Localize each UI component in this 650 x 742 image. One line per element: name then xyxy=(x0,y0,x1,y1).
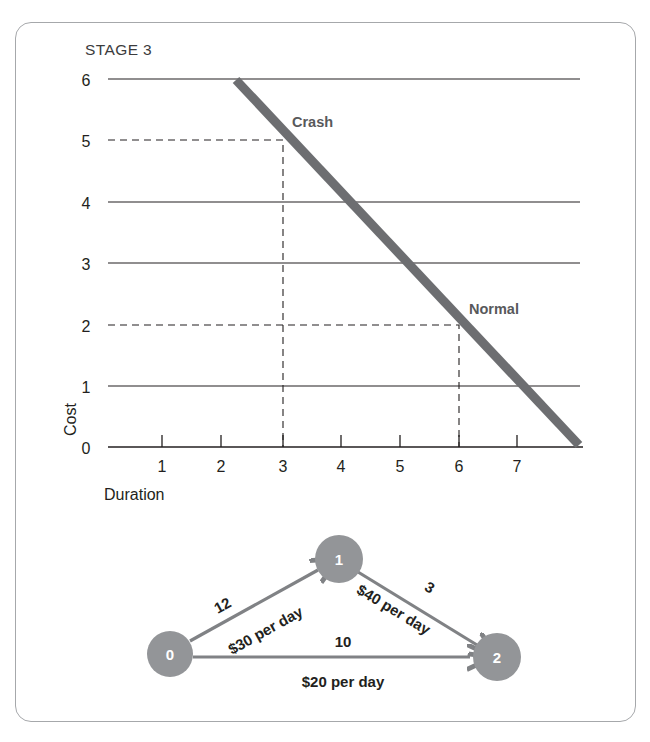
ytick-label-2: 2 xyxy=(82,318,91,335)
xtick-label-3: 3 xyxy=(279,458,288,475)
network-edge-1-2 xyxy=(358,572,477,645)
xtick-label-4: 4 xyxy=(337,458,346,475)
cost-duration-chart: STAGE 3 6 5 4 3 2 1 0 Cost xyxy=(62,41,583,503)
activity-network-diagram: 0 1 2 12 $30 per day 3 $40 per day 10 $2… xyxy=(147,535,521,690)
network-node-label-0: 0 xyxy=(166,646,174,663)
stage-title: STAGE 3 xyxy=(85,41,152,58)
xtick-label-6: 6 xyxy=(455,458,464,475)
xtick-label-1: 1 xyxy=(158,458,167,475)
ytick-label-0: 0 xyxy=(82,440,91,457)
xtick-label-7: 7 xyxy=(513,458,522,475)
network-node-label-2: 2 xyxy=(493,649,501,666)
figure-canvas: STAGE 3 6 5 4 3 2 1 0 Cost xyxy=(0,0,650,742)
figure-root: STAGE 3 6 5 4 3 2 1 0 Cost xyxy=(0,0,650,742)
ytick-label-1: 1 xyxy=(82,379,91,396)
ytick-label-6: 6 xyxy=(82,72,91,89)
xtick-label-5: 5 xyxy=(396,458,405,475)
network-edge-cost-0-2: $20 per day xyxy=(302,673,385,690)
ytick-label-5: 5 xyxy=(82,133,91,150)
x-axis-title: Duration xyxy=(104,486,164,503)
network-edge-duration-0-1: 12 xyxy=(211,594,234,617)
network-edge-duration-0-2: 10 xyxy=(335,633,352,650)
network-edge-cost-0-1: $30 per day xyxy=(225,602,306,657)
annotation-crash: Crash xyxy=(292,114,333,130)
network-edge-duration-1-2: 3 xyxy=(422,578,438,597)
guide-crash xyxy=(108,140,283,447)
annotation-normal: Normal xyxy=(469,301,519,317)
y-axis-title: Cost xyxy=(62,403,79,436)
network-edge-cost-1-2: $40 per day xyxy=(354,581,434,638)
ytick-label-4: 4 xyxy=(82,195,91,212)
xtick-label-2: 2 xyxy=(217,458,226,475)
ytick-label-3: 3 xyxy=(82,256,91,273)
network-node-label-1: 1 xyxy=(335,551,343,568)
